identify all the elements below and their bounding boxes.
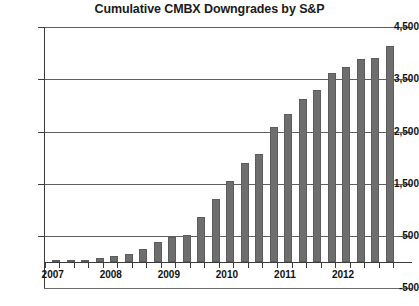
chart-figure: Cumulative CMBX Downgrades by S&P 4,5003… <box>0 0 419 306</box>
bar <box>299 99 307 262</box>
chart-bottom-rule <box>44 288 412 289</box>
x-tick-mark <box>190 262 191 268</box>
x-tick-mark <box>277 262 278 268</box>
bar <box>139 249 147 262</box>
x-axis-year-label: 2012 <box>332 269 354 280</box>
x-tick-mark <box>88 262 89 268</box>
x-tick-mark <box>335 262 336 268</box>
bar <box>183 235 191 262</box>
bar <box>313 90 321 262</box>
x-tick-mark <box>350 262 351 268</box>
bar <box>125 254 133 262</box>
x-tick-mark <box>292 262 293 268</box>
x-tick-mark <box>117 262 118 268</box>
bar <box>284 114 292 262</box>
bar <box>241 163 249 262</box>
bar <box>371 58 379 262</box>
x-tick-mark <box>306 262 307 268</box>
bar <box>342 67 350 262</box>
bar <box>386 46 394 262</box>
x-tick-mark <box>379 262 380 268</box>
bar <box>212 199 220 262</box>
x-tick-mark <box>204 262 205 268</box>
bar <box>197 217 205 262</box>
bar-series <box>44 0 412 262</box>
y-tick-label: -500 <box>379 282 419 293</box>
x-axis-year-label: 2008 <box>100 269 122 280</box>
bar <box>226 181 234 262</box>
x-tick-mark <box>132 262 133 268</box>
bar <box>154 242 162 262</box>
x-tick-mark <box>74 262 75 268</box>
x-tick-mark <box>103 262 104 268</box>
x-tick-mark <box>262 262 263 268</box>
x-tick-mark <box>321 262 322 268</box>
x-tick-mark <box>364 262 365 268</box>
x-axis-zero-line <box>44 262 412 263</box>
bar <box>255 154 263 262</box>
x-tick-mark <box>146 262 147 268</box>
x-tick-mark <box>45 262 46 268</box>
x-tick-mark <box>233 262 234 268</box>
x-axis-year-label: 2010 <box>216 269 238 280</box>
x-tick-mark <box>59 262 60 268</box>
x-tick-mark <box>393 262 394 268</box>
bar <box>168 237 176 262</box>
x-axis-year-label: 2009 <box>158 269 180 280</box>
bar <box>328 73 336 262</box>
bar <box>357 59 365 262</box>
x-tick-mark <box>248 262 249 268</box>
x-tick-mark <box>175 262 176 268</box>
x-tick-mark <box>219 262 220 268</box>
x-axis-year-label: 2007 <box>42 269 64 280</box>
x-tick-mark <box>161 262 162 268</box>
bar <box>270 127 278 262</box>
x-axis-year-label: 2011 <box>274 269 296 280</box>
